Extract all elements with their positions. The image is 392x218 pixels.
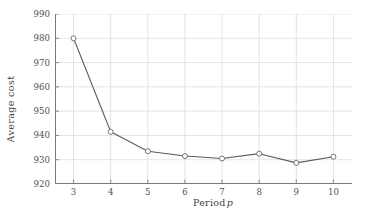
- data-line-series: [74, 38, 334, 163]
- y-axis-tick-label: 970: [14, 58, 50, 67]
- y-axis-tick-label: 990: [14, 10, 50, 19]
- x-axis-title: Periodp: [48, 197, 378, 208]
- plot-area: [55, 14, 352, 184]
- chart-canvas: [55, 14, 352, 184]
- y-axis-tick-label: 980: [14, 34, 50, 43]
- y-axis-tick-label: 930: [14, 155, 50, 164]
- x-axis-tick-label: 10: [318, 188, 348, 197]
- y-axis-tick-label: 920: [14, 180, 50, 189]
- x-axis-tick-label: 4: [96, 188, 126, 197]
- x-axis-title-symbol: p: [226, 197, 233, 208]
- chart-figure: Average cost 920930940950960970980990 34…: [0, 0, 392, 218]
- y-axis-title: Average cost: [0, 0, 20, 218]
- x-axis-tick-label: 3: [59, 188, 89, 197]
- y-axis-tick-label: 940: [14, 131, 50, 140]
- x-axis-title-text: Period: [193, 197, 226, 208]
- gridlines: [55, 14, 352, 160]
- x-axis-tick-label: 5: [133, 188, 163, 197]
- y-axis-tick-label: 950: [14, 107, 50, 116]
- x-axis-tick-label: 8: [244, 188, 274, 197]
- axis-spines: [55, 14, 352, 184]
- y-axis-tick-label: 960: [14, 83, 50, 92]
- y-axis-title-text: Average cost: [5, 76, 16, 143]
- vertical-gridlines: [74, 14, 334, 184]
- x-axis-tick-label: 9: [281, 188, 311, 197]
- x-axis-tick-label: 7: [207, 188, 237, 197]
- x-axis-tick-label: 6: [170, 188, 200, 197]
